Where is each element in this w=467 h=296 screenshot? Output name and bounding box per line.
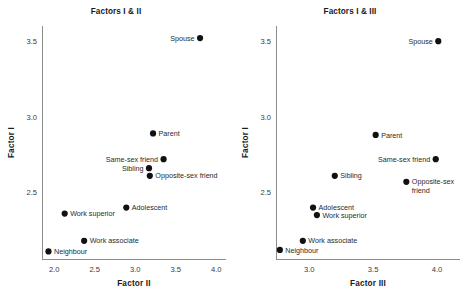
y-axis-title: Factor I xyxy=(241,127,250,158)
data-point-label: Sibling xyxy=(340,171,362,180)
data-point-marker xyxy=(403,179,409,185)
y-tick-label: 3.5 xyxy=(26,37,37,46)
x-tick-label: 3.5 xyxy=(170,265,181,274)
data-point-marker xyxy=(299,238,305,244)
data-point-label: Adolescent xyxy=(132,203,168,212)
data-point-group: Spouse xyxy=(408,37,441,46)
data-point-group: Neighbour xyxy=(276,246,318,255)
data-point-label: Neighbour xyxy=(285,246,319,255)
x-tick-label: 4.0 xyxy=(211,265,222,274)
data-point-marker xyxy=(45,248,51,254)
y-tick-label: 3.0 xyxy=(26,113,37,122)
data-point-marker xyxy=(123,204,129,210)
y-tick-label: 2.5 xyxy=(26,188,37,197)
x-tick-label: 4.0 xyxy=(431,265,442,274)
data-point-marker xyxy=(435,38,441,44)
x-tick-label: 3.0 xyxy=(303,265,314,274)
data-point-marker xyxy=(276,247,282,253)
data-point-group: Sibling xyxy=(331,171,361,180)
data-point-group: Neighbour xyxy=(45,247,87,256)
data-point-marker xyxy=(146,165,152,171)
data-point-label: friend xyxy=(411,186,429,195)
panel-factors-i-and-ii: Factors I & II2.53.03.52.02.53.03.54.0Fa… xyxy=(0,0,234,296)
panel-title: Factors I & III xyxy=(323,7,376,16)
data-point-marker xyxy=(313,212,319,218)
data-point-label: Parent xyxy=(159,129,180,138)
data-point-label: Work superior xyxy=(322,211,367,220)
data-point-label: Work associate xyxy=(90,236,139,245)
data-point-label: Work superior xyxy=(70,209,115,218)
data-point-label: Spouse xyxy=(408,37,432,46)
scatter-plot-figure: Factors I & II2.53.03.52.02.53.03.54.0Fa… xyxy=(0,0,467,296)
data-point-marker xyxy=(331,173,337,179)
data-point-label: Work associate xyxy=(308,236,357,245)
panel-title: Factors I & II xyxy=(91,7,142,16)
data-point-label: Parent xyxy=(381,131,402,140)
data-point-group: Work superior xyxy=(313,211,367,220)
data-point-label: Spouse xyxy=(170,34,194,43)
data-point-label: Sibling xyxy=(122,164,144,173)
data-point-group: Opposite-sex friend xyxy=(147,171,218,180)
data-point-group: Work associate xyxy=(81,236,139,245)
data-point-marker xyxy=(372,132,378,138)
data-point-group: Parent xyxy=(150,129,180,138)
y-tick-label: 2.5 xyxy=(260,188,271,197)
y-tick-label: 3.0 xyxy=(260,113,271,122)
data-point-group: Sibling xyxy=(122,164,152,173)
data-point-group: Adolescent xyxy=(123,203,167,212)
data-point-group: Parent xyxy=(372,131,402,140)
x-tick-label: 2.5 xyxy=(89,265,100,274)
data-point-group: Same-sex friend xyxy=(377,155,438,164)
x-tick-label: 3.5 xyxy=(367,265,378,274)
y-tick-label: 3.5 xyxy=(260,37,271,46)
data-point-marker xyxy=(432,156,438,162)
data-point-group: Opposite-sexfriend xyxy=(403,177,454,195)
x-tick-label: 3.0 xyxy=(130,265,141,274)
chart-canvas-right: Factors I & III2.53.03.53.03.54.0Factor … xyxy=(234,0,467,296)
data-point-label: Same-sex friend xyxy=(106,155,158,164)
chart-canvas-left: Factors I & II2.53.03.52.02.53.03.54.0Fa… xyxy=(0,0,234,296)
data-point-marker xyxy=(81,238,87,244)
x-axis-title: Factor III xyxy=(349,279,385,288)
data-point-group: Work superior xyxy=(62,209,116,218)
data-point-marker xyxy=(309,204,315,210)
x-axis-title: Factor II xyxy=(117,279,151,288)
y-axis-title: Factor I xyxy=(7,127,16,158)
data-point-marker xyxy=(147,173,153,179)
data-point-label: Same-sex friend xyxy=(377,155,429,164)
x-tick-label: 2.0 xyxy=(49,265,60,274)
data-point-marker xyxy=(62,211,68,217)
data-point-label: Opposite-sex friend xyxy=(155,171,217,180)
data-point-group: Same-sex friend xyxy=(106,155,167,164)
data-point-group: Work associate xyxy=(299,236,357,245)
data-point-marker xyxy=(197,35,203,41)
data-point-marker xyxy=(160,156,166,162)
data-point-group: Spouse xyxy=(170,34,203,43)
panel-factors-i-and-iii: Factors I & III2.53.03.53.03.54.0Factor … xyxy=(234,0,467,296)
data-point-label: Neighbour xyxy=(54,247,88,256)
data-point-marker xyxy=(150,130,156,136)
